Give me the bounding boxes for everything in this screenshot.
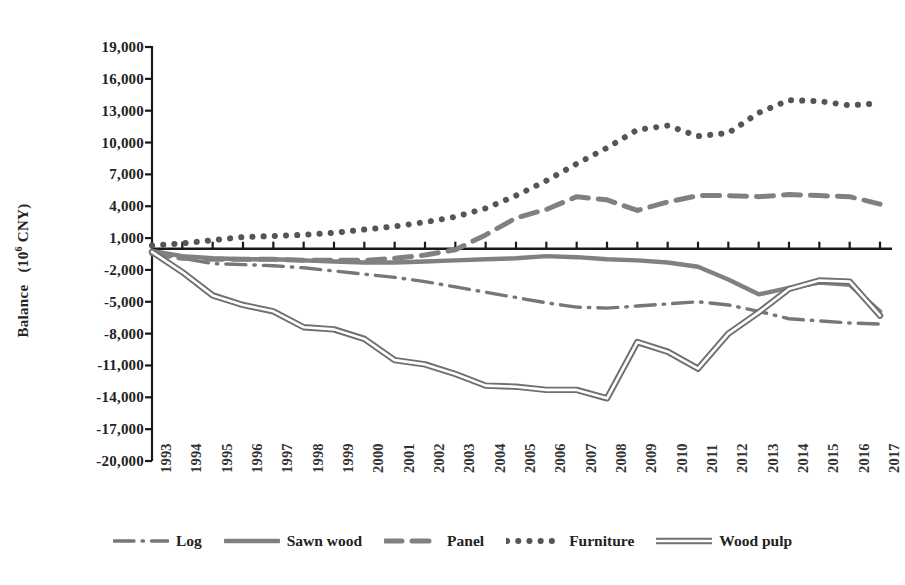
balance-line-chart: Balance (106 CNY) 19,00016,00013,00010,0…	[0, 0, 905, 585]
legend-swatch-sawn-wood-icon	[224, 534, 280, 548]
series-line-wood-pulp-inner	[152, 252, 880, 398]
legend-item-wood-pulp[interactable]: Wood pulp	[656, 532, 792, 550]
legend-label: Sawn wood	[287, 532, 362, 550]
legend-swatch-log-icon	[113, 534, 169, 548]
chart-legend: LogSawn woodPanelFurnitureWood pulp	[0, 524, 905, 558]
legend-swatch-panel-icon	[384, 534, 440, 548]
series-line-wood-pulp-outer	[152, 252, 880, 398]
legend-item-sawn-wood[interactable]: Sawn wood	[224, 532, 362, 550]
legend-item-panel[interactable]: Panel	[384, 532, 484, 550]
legend-label: Panel	[447, 532, 484, 550]
legend-item-furniture[interactable]: Furniture	[506, 532, 634, 550]
legend-label: Log	[176, 532, 202, 550]
legend-item-log[interactable]: Log	[113, 532, 202, 550]
legend-swatch-furniture-icon	[506, 534, 562, 548]
series-line-furniture	[152, 100, 880, 245]
legend-label: Wood pulp	[719, 532, 792, 550]
plot-area	[0, 0, 905, 585]
legend-swatch-wood-pulp-icon	[656, 534, 712, 548]
legend-label: Furniture	[569, 532, 634, 550]
series-line-log	[152, 252, 880, 324]
series-line-panel	[152, 195, 880, 261]
